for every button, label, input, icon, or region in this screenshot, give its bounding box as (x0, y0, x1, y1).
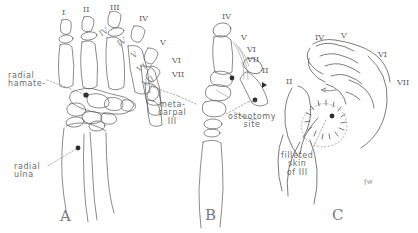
anatomical-figure (0, 0, 418, 233)
panel-b-numeral-vii: VII (247, 55, 259, 64)
panel-c-numeral-v: V (341, 31, 347, 40)
panel-c-numeral-ii: II (286, 77, 292, 86)
panel-letter-b: B (205, 206, 217, 224)
panel-b-numeral-ii: II (262, 66, 268, 75)
panel-c-numeral-vii: VII (397, 78, 409, 87)
panel-letter-a: A (60, 207, 72, 225)
digit-numeral-v: V (160, 38, 166, 47)
panel-c-numeral-iv: IV (315, 33, 324, 42)
panel-b-numeral-iv: IV (222, 12, 231, 21)
panel-letter-c: C (332, 206, 344, 224)
artist-signature: fw (363, 177, 373, 186)
digit-numeral-i: I (62, 8, 65, 17)
digit-numeral-ii: II (83, 5, 89, 14)
digit-numeral-vii: VII (172, 70, 184, 79)
panel-b-numeral-vi: VI (247, 45, 256, 54)
digit-numeral-vi: VI (172, 56, 181, 65)
panel-b-numeral-v: V (241, 33, 247, 42)
digit-numeral-iv: IV (139, 14, 148, 23)
digit-numeral-iii: III (110, 3, 119, 12)
panel-c-numeral-vi: VI (378, 50, 387, 59)
